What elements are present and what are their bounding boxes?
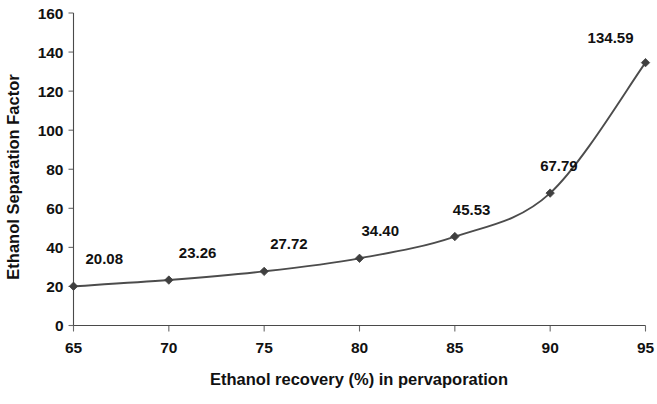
x-tick-label: 75 bbox=[256, 339, 274, 356]
x-tick-label: 65 bbox=[65, 339, 83, 356]
y-tick-label: 20 bbox=[46, 278, 63, 295]
x-tick-label: 85 bbox=[446, 339, 464, 356]
y-axis-title: Ethanol Separation Factor bbox=[4, 74, 22, 280]
data-point-label: 20.08 bbox=[86, 250, 124, 267]
x-tick-label: 80 bbox=[351, 339, 368, 356]
y-tick-label: 140 bbox=[38, 44, 64, 61]
data-point-label: 34.40 bbox=[362, 222, 400, 239]
y-tick-label: 80 bbox=[46, 161, 63, 178]
data-point-label: 45.53 bbox=[453, 201, 491, 218]
line-chart: 020406080100120140160 65707580859095 20.… bbox=[0, 0, 657, 404]
chart-container: 020406080100120140160 65707580859095 20.… bbox=[0, 0, 657, 404]
x-tick-label: 90 bbox=[542, 339, 559, 356]
y-tick-label: 160 bbox=[38, 5, 64, 22]
x-axis-title: Ethanol recovery (%) in pervaporation bbox=[210, 370, 508, 388]
data-point-label: 134.59 bbox=[588, 29, 634, 46]
data-point-label: 67.79 bbox=[540, 157, 578, 174]
y-tick-label: 40 bbox=[46, 239, 63, 256]
x-tick-label: 70 bbox=[160, 339, 177, 356]
y-tick-label: 100 bbox=[38, 122, 64, 139]
data-point-label: 27.72 bbox=[270, 235, 308, 252]
x-tick-label: 95 bbox=[637, 339, 655, 356]
y-tick-label: 0 bbox=[55, 317, 64, 334]
data-point-label: 23.26 bbox=[179, 244, 217, 261]
y-tick-label: 120 bbox=[38, 83, 64, 100]
y-tick-label: 60 bbox=[46, 200, 63, 217]
